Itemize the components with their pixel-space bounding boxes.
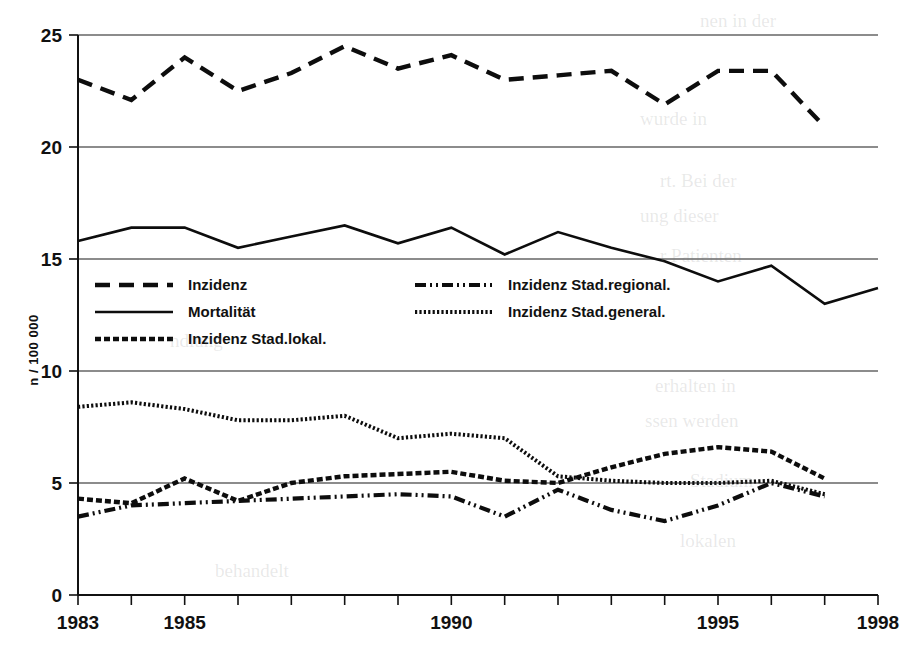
legend-label: Inzidenz Stad.general. <box>508 303 666 320</box>
legend-entry-inzidenz-stad-lokal: Inzidenz Stad.lokal. <box>95 330 326 347</box>
x-tick-label-1998: 1998 <box>857 612 899 633</box>
legend-label: Inzidenz Stad.lokal. <box>188 330 326 347</box>
y-tick-label-0: 0 <box>51 585 62 606</box>
y-tick-label-15: 15 <box>41 249 63 270</box>
chart-figure: nen in der wurde in rt. Bei der ung dies… <box>0 0 909 659</box>
x-tick-label-1990: 1990 <box>430 612 472 633</box>
x-tick-label-1983: 1983 <box>57 612 99 633</box>
legend-entry-inzidenz: Inzidenz <box>95 276 247 293</box>
line-chart: 0510152025 19831985199019951998 n / 100 … <box>0 0 909 659</box>
y-tick-label-10: 10 <box>41 361 62 382</box>
legend-entry-inzidenz-stad-general: Inzidenz Stad.general. <box>415 303 666 320</box>
series-line-inzidenz-stad-regional <box>78 483 825 521</box>
legend-label: Inzidenz <box>188 276 247 293</box>
y-axis-tick-labels: 0510152025 <box>41 25 63 606</box>
chart-legend: InzidenzMortalitätInzidenz Stad.lokal.In… <box>95 276 671 347</box>
legend-entry-mortalit-t: Mortalität <box>95 303 256 320</box>
legend-label: Mortalität <box>188 303 256 320</box>
y-tick-label-25: 25 <box>41 25 63 46</box>
x-axis-ticks <box>78 595 878 605</box>
x-tick-label-1985: 1985 <box>164 612 207 633</box>
y-axis-title: n / 100 000 <box>26 314 41 385</box>
series-line-inzidenz-stad-lokal <box>78 447 825 503</box>
legend-label: Inzidenz Stad.regional. <box>508 276 671 293</box>
x-tick-label-1995: 1995 <box>697 612 740 633</box>
y-tick-label-20: 20 <box>41 137 62 158</box>
x-axis-tick-labels: 19831985199019951998 <box>57 612 899 633</box>
legend-entry-inzidenz-stad-regional: Inzidenz Stad.regional. <box>415 276 671 293</box>
series-line-inzidenz <box>78 46 825 127</box>
y-axis-ticks <box>69 35 78 595</box>
y-tick-label-5: 5 <box>51 473 62 494</box>
